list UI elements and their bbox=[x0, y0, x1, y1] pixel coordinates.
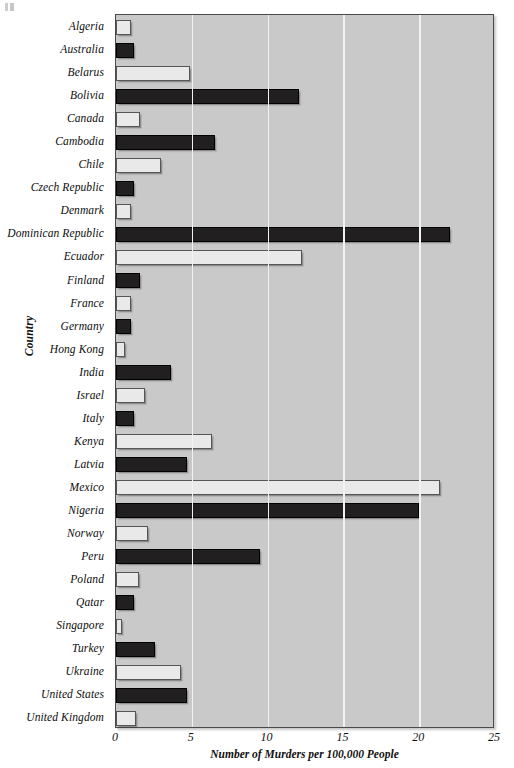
gridline-5 bbox=[192, 15, 194, 727]
plot-area bbox=[115, 14, 494, 728]
category-label-australia: Australia bbox=[60, 37, 104, 61]
x-tick-10: 10 bbox=[261, 730, 273, 745]
bar-row bbox=[116, 337, 493, 361]
bar-row bbox=[116, 430, 493, 454]
bar-israel bbox=[116, 388, 145, 403]
bar-row bbox=[116, 407, 493, 431]
category-label-ukraine: Ukraine bbox=[66, 659, 104, 683]
bar-row bbox=[116, 591, 493, 615]
bar-germany bbox=[116, 319, 131, 334]
bar-row bbox=[116, 360, 493, 384]
category-label-mexico: Mexico bbox=[70, 475, 104, 499]
bar-turkey bbox=[116, 642, 155, 657]
bar-row bbox=[116, 130, 493, 154]
bar-peru bbox=[116, 549, 260, 564]
bar-row bbox=[116, 637, 493, 661]
bar-france bbox=[116, 296, 131, 311]
category-label-czech-republic: Czech Republic bbox=[31, 175, 104, 199]
category-label-nigeria: Nigeria bbox=[68, 498, 104, 522]
bar-row bbox=[116, 176, 493, 200]
category-label-finland: Finland bbox=[67, 267, 104, 291]
bar-denmark bbox=[116, 204, 131, 219]
bar-row bbox=[116, 660, 493, 684]
x-axis-tick-labels: 0510152025 bbox=[115, 730, 494, 748]
x-tick-5: 5 bbox=[188, 730, 194, 745]
bar-row bbox=[116, 107, 493, 131]
bar-row bbox=[116, 384, 493, 408]
bar-ukraine bbox=[116, 665, 181, 680]
bar-row bbox=[116, 499, 493, 523]
bar-australia bbox=[116, 43, 134, 58]
category-label-singapore: Singapore bbox=[56, 613, 104, 637]
category-label-ecuador: Ecuador bbox=[64, 244, 104, 268]
bar-row bbox=[116, 453, 493, 477]
bar-finland bbox=[116, 273, 140, 288]
bar-united-kingdom bbox=[116, 711, 136, 726]
bar-row bbox=[116, 522, 493, 546]
category-label-germany: Germany bbox=[61, 313, 105, 337]
category-label-poland: Poland bbox=[70, 567, 104, 591]
category-label-belarus: Belarus bbox=[68, 60, 104, 84]
category-label-hong-kong: Hong Kong bbox=[50, 336, 104, 360]
bar-kenya bbox=[116, 434, 212, 449]
bar-bolivia bbox=[116, 89, 299, 104]
bar-row bbox=[116, 153, 493, 177]
gridline-10 bbox=[268, 15, 270, 727]
bar-row bbox=[116, 545, 493, 569]
category-label-turkey: Turkey bbox=[72, 636, 104, 660]
category-label-united-states: United States bbox=[41, 682, 104, 706]
bar-rows bbox=[116, 15, 493, 727]
category-label-united-kingdom: United Kingdom bbox=[26, 705, 104, 729]
bar-row bbox=[116, 314, 493, 338]
category-label-norway: Norway bbox=[67, 521, 104, 545]
bar-belarus bbox=[116, 66, 190, 81]
bar-latvia bbox=[116, 457, 187, 472]
category-label-chile: Chile bbox=[79, 152, 104, 176]
bar-row bbox=[116, 84, 493, 108]
murder-rate-bar-chart: Country AlgeriaAustraliaBelarusBoliviaCa… bbox=[0, 0, 514, 768]
bar-canada bbox=[116, 112, 140, 127]
bar-row bbox=[116, 222, 493, 246]
bar-row bbox=[116, 199, 493, 223]
bar-norway bbox=[116, 526, 148, 541]
category-label-algeria: Algeria bbox=[69, 14, 104, 38]
category-label-italy: Italy bbox=[82, 406, 104, 430]
bar-italy bbox=[116, 411, 134, 426]
category-label-israel: Israel bbox=[77, 383, 104, 407]
bar-mexico bbox=[116, 480, 440, 495]
gridline-15 bbox=[343, 15, 345, 727]
bar-united-states bbox=[116, 688, 187, 703]
bar-row bbox=[116, 245, 493, 269]
bar-singapore bbox=[116, 619, 122, 634]
bar-row bbox=[116, 268, 493, 292]
bar-india bbox=[116, 365, 171, 380]
category-label-bolivia: Bolivia bbox=[70, 83, 104, 107]
scan-artifact-mark bbox=[5, 3, 14, 11]
bar-algeria bbox=[116, 20, 131, 35]
category-label-latvia: Latvia bbox=[74, 452, 104, 476]
category-label-canada: Canada bbox=[67, 106, 104, 130]
category-label-france: France bbox=[70, 290, 104, 314]
category-label-kenya: Kenya bbox=[74, 429, 104, 453]
category-label-dominican-republic: Dominican Republic bbox=[7, 221, 104, 245]
bar-row bbox=[116, 61, 493, 85]
category-label-qatar: Qatar bbox=[76, 590, 104, 614]
x-tick-15: 15 bbox=[336, 730, 348, 745]
gridline-20 bbox=[419, 15, 421, 727]
bar-qatar bbox=[116, 595, 134, 610]
x-axis-title: Number of Murders per 100,000 People bbox=[115, 748, 494, 760]
category-label-india: India bbox=[79, 359, 104, 383]
x-tick-0: 0 bbox=[112, 730, 118, 745]
bar-cambodia bbox=[116, 135, 215, 150]
bar-czech-republic bbox=[116, 181, 134, 196]
bar-chile bbox=[116, 158, 161, 173]
bar-poland bbox=[116, 572, 139, 587]
bar-row bbox=[116, 683, 493, 707]
bar-row bbox=[116, 706, 493, 730]
category-label-peru: Peru bbox=[81, 544, 104, 568]
category-label-cambodia: Cambodia bbox=[55, 129, 104, 153]
bar-row bbox=[116, 291, 493, 315]
bar-row bbox=[116, 568, 493, 592]
x-tick-25: 25 bbox=[488, 730, 500, 745]
category-label-denmark: Denmark bbox=[61, 198, 105, 222]
